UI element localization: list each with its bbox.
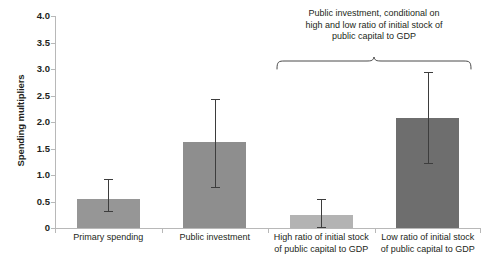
y-tick-label: 3.0 <box>16 64 50 74</box>
error-bar-line <box>321 199 322 228</box>
error-bar-cap <box>317 227 326 228</box>
x-axis-label-line: High ratio of initial stock <box>268 232 375 244</box>
error-bar-cap <box>104 179 113 180</box>
error-bar-cap <box>211 187 220 188</box>
error-bar-line <box>428 72 429 164</box>
x-axis-label-line: of public capital to GDP <box>375 244 482 256</box>
y-tick-mark <box>51 69 56 70</box>
y-tick-mark <box>51 122 56 123</box>
annotation-line: Public investment, conditional on <box>262 8 486 20</box>
x-axis-label-line: Public investment <box>162 232 269 244</box>
y-tick-mark <box>51 175 56 176</box>
error-bar-cap <box>424 163 433 164</box>
error-bar-cap <box>424 72 433 73</box>
error-bar-line <box>108 179 109 211</box>
error-bar-line <box>215 99 216 186</box>
x-axis-label: High ratio of initial stockof public cap… <box>268 232 375 255</box>
y-tick-mark <box>51 43 56 44</box>
y-tick-mark <box>51 96 56 97</box>
y-tick-label: 4.0 <box>16 11 50 21</box>
spending-multipliers-bar-chart: Spending multipliers 00.51.01.52.02.53.0… <box>0 0 491 266</box>
y-tick-mark <box>51 149 56 150</box>
plot-area <box>55 16 481 228</box>
y-tick-label: 0 <box>16 223 50 233</box>
x-axis-label: Public investment <box>162 232 269 244</box>
y-tick-label: 1.0 <box>16 170 50 180</box>
error-bar-cap <box>211 99 220 100</box>
x-axis-label-line: of public capital to GDP <box>268 244 375 256</box>
annotation-text: Public investment, conditional onhigh an… <box>262 8 486 43</box>
annotation-curly-brace-icon <box>276 56 472 70</box>
y-tick-label: 2.5 <box>16 91 50 101</box>
annotation-line: high and low ratio of initial stock of <box>262 20 486 32</box>
y-tick-label: 1.5 <box>16 144 50 154</box>
y-tick-mark <box>51 202 56 203</box>
x-axis-label: Primary spending <box>55 232 162 244</box>
x-axis-label: Low ratio of initial stockof public capi… <box>375 232 482 255</box>
error-bar-cap <box>104 211 113 212</box>
y-axis-tick-labels: 00.51.01.52.02.53.03.54.0 <box>10 0 50 266</box>
y-tick-mark <box>51 16 56 17</box>
y-tick-label: 0.5 <box>16 197 50 207</box>
annotation-line: public capital to GDP <box>262 31 486 43</box>
x-axis-tick-labels: Primary spendingPublic investmentHigh ra… <box>55 232 481 266</box>
x-axis-label-line: Low ratio of initial stock <box>375 232 482 244</box>
error-bar-cap <box>317 199 326 200</box>
x-axis-label-line: Primary spending <box>55 232 162 244</box>
y-tick-label: 3.5 <box>16 38 50 48</box>
y-tick-label: 2.0 <box>16 117 50 127</box>
